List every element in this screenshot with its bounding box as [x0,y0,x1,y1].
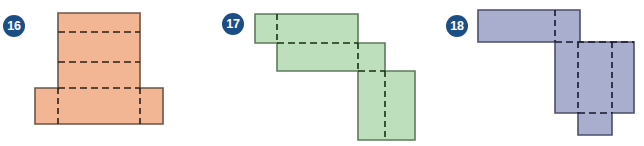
diagram-canvas: 16 17 18 [0,0,644,146]
figure-18-number-label: 18 [450,20,463,33]
figure-18-number-badge: 18 [446,15,468,37]
figure-18-drawing [0,0,644,146]
figure-18-shape-fill [478,10,634,135]
